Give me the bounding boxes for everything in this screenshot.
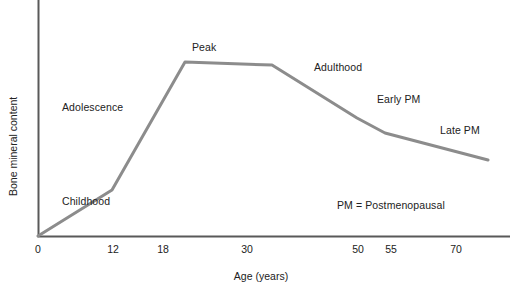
x-tick-label-50: 50 — [352, 243, 364, 255]
annotation-adolescence: Adolescence — [62, 101, 123, 113]
annotation-legend-note: PM = Postmenopausal — [337, 199, 445, 211]
annotation-adulthood: Adulthood — [314, 61, 362, 73]
annotation-childhood: Childhood — [62, 195, 110, 207]
annotation-early-pm: Early PM — [377, 93, 420, 105]
x-tick-label-0: 0 — [35, 243, 41, 255]
x-tick-label-12: 12 — [107, 243, 119, 255]
x-tick-label-70: 70 — [450, 243, 462, 255]
x-axis-title: Age (years) — [0, 270, 522, 282]
annotation-late-pm: Late PM — [440, 124, 480, 136]
y-axis-title: Bone mineral content — [6, 182, 156, 196]
x-tick-label-18: 18 — [157, 243, 169, 255]
x-tick-label-30: 30 — [241, 243, 253, 255]
x-tick-label-55: 55 — [385, 243, 397, 255]
chart-plot-area — [0, 0, 522, 295]
bone-mineral-content-chart: 0 12 18 30 50 55 70 Bone mineral content… — [0, 0, 522, 295]
annotation-peak: Peak — [192, 41, 216, 53]
